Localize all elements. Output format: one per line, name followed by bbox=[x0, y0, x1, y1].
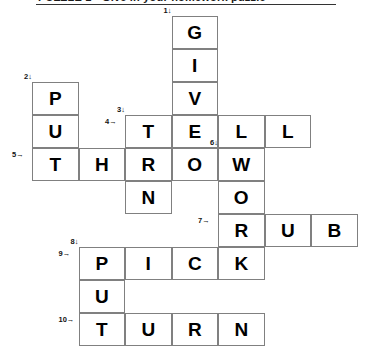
grid-cell[interactable]: R bbox=[125, 148, 172, 181]
grid-cell[interactable]: B bbox=[311, 214, 358, 247]
grid-cell[interactable]: C bbox=[172, 247, 219, 280]
grid-cell[interactable]: T bbox=[125, 115, 172, 148]
clue-number: 8↓ bbox=[71, 238, 79, 246]
clue-number: 3↓ bbox=[117, 106, 125, 114]
grid-cell[interactable]: N bbox=[125, 181, 172, 214]
grid-cell[interactable]: U bbox=[32, 115, 79, 148]
clue-number: 4→ bbox=[105, 118, 117, 126]
grid-cell[interactable]: I bbox=[172, 49, 219, 82]
grid-cell[interactable]: P bbox=[32, 82, 79, 115]
grid-cell[interactable]: R bbox=[218, 214, 265, 247]
clue-number: 6↓ bbox=[210, 139, 218, 147]
grid-cell[interactable]: P bbox=[79, 247, 126, 280]
clue-number: 2↓ bbox=[24, 73, 32, 81]
grid-cell[interactable]: H bbox=[79, 148, 126, 181]
grid-cell[interactable]: R bbox=[172, 313, 219, 346]
grid-cell[interactable]: G bbox=[172, 16, 219, 49]
grid-cell[interactable]: V bbox=[172, 82, 219, 115]
grid-cell[interactable]: O bbox=[172, 148, 219, 181]
grid-cell[interactable]: K bbox=[218, 247, 265, 280]
clue-number: 1↓ bbox=[164, 7, 172, 15]
grid-cell[interactable]: N bbox=[218, 313, 265, 346]
grid-cell[interactable]: W bbox=[218, 148, 265, 181]
grid-cell[interactable]: I bbox=[125, 247, 172, 280]
grid-cell[interactable]: T bbox=[79, 313, 126, 346]
clue-number: 10→ bbox=[59, 316, 75, 324]
grid-cell[interactable]: O bbox=[218, 181, 265, 214]
grid-cell[interactable]: T bbox=[32, 148, 79, 181]
grid-cell[interactable]: U bbox=[125, 313, 172, 346]
clue-number: 7→ bbox=[198, 217, 210, 225]
grid-cell[interactable]: U bbox=[79, 280, 126, 313]
grid-cell[interactable]: L bbox=[265, 115, 312, 148]
grid-cell[interactable]: U bbox=[265, 214, 312, 247]
clue-number: 9→ bbox=[59, 250, 71, 258]
clue-number: 5→ bbox=[12, 151, 24, 159]
grid-cell[interactable]: L bbox=[218, 115, 265, 148]
